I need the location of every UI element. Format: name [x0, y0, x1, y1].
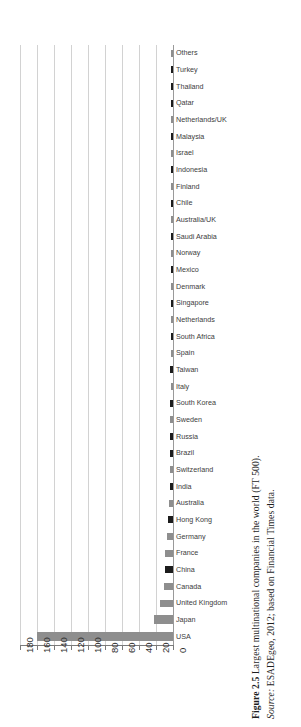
category-label: Israel — [176, 149, 194, 156]
bar-row — [20, 595, 173, 612]
category-label: Sweden — [176, 416, 202, 423]
bar-row — [20, 62, 173, 79]
x-tick-label: 40 — [143, 642, 154, 653]
caption-title-line: Figure 2.5 Largest multinational compani… — [250, 455, 261, 719]
x-tick-label: 140 — [58, 637, 69, 653]
x-tick — [88, 646, 89, 650]
bar — [165, 550, 173, 557]
bar-row — [20, 428, 173, 445]
bar-row — [20, 195, 173, 212]
category-label: Norway — [176, 249, 200, 256]
bar-row — [20, 495, 173, 512]
category-label: India — [176, 483, 192, 490]
bar — [171, 350, 173, 357]
bar — [171, 133, 173, 140]
bar — [171, 250, 173, 257]
bar-row — [20, 362, 173, 379]
bar-row — [20, 345, 173, 362]
bar-row — [20, 45, 173, 62]
bar — [171, 116, 173, 123]
bar — [171, 183, 173, 190]
category-label: Mexico — [176, 266, 199, 273]
caption-source-line: Source: ESADEgeo, 2012; based on Financi… — [265, 489, 276, 719]
bar — [171, 66, 173, 73]
x-tick — [122, 646, 123, 650]
category-labels-group: OthersTurkeyThailandQatarNetherlands/UKM… — [176, 45, 246, 645]
x-tick — [173, 646, 174, 650]
bar — [171, 83, 173, 90]
x-tick — [139, 646, 140, 650]
bar-row — [20, 395, 173, 412]
category-label: Saudi Arabia — [176, 233, 217, 240]
bar-row — [20, 512, 173, 529]
x-tick — [156, 646, 157, 650]
bar-row — [20, 612, 173, 629]
x-tick-label: 80 — [109, 642, 120, 653]
x-tick-label: 180 — [24, 637, 35, 653]
bar-row — [20, 112, 173, 129]
bar-row — [20, 545, 173, 562]
x-tick-label: 0 — [177, 648, 188, 653]
bar-row — [20, 445, 173, 462]
bar — [171, 283, 173, 290]
bar-row — [20, 378, 173, 395]
bar-row — [20, 128, 173, 145]
bar — [170, 450, 173, 457]
category-label: China — [176, 566, 195, 573]
category-label: Denmark — [176, 283, 205, 290]
bar — [170, 416, 173, 423]
bar — [167, 533, 173, 540]
category-label: Indonesia — [176, 166, 207, 173]
bar-row — [20, 278, 173, 295]
category-label: Australia — [176, 499, 204, 506]
bar — [171, 216, 173, 223]
bar-row — [20, 78, 173, 95]
bar — [170, 483, 173, 490]
bar — [170, 366, 173, 373]
bar — [171, 383, 173, 390]
bar-row — [20, 95, 173, 112]
x-tick-label: 100 — [92, 637, 103, 653]
caption-figure-number: Figure 2.5 — [250, 677, 261, 719]
category-label: USA — [176, 633, 191, 640]
x-tick-label: 20 — [160, 642, 171, 653]
bar-row — [20, 212, 173, 229]
bar — [160, 600, 173, 607]
bar-row — [20, 178, 173, 195]
category-label: United Kingdom — [176, 599, 227, 606]
bar — [170, 400, 173, 407]
bar — [171, 333, 173, 340]
category-label: Chile — [176, 199, 192, 206]
category-label: Malaysia — [176, 133, 204, 140]
figure-bar-chart: OthersTurkeyThailandQatarNetherlands/UKM… — [0, 0, 245, 727]
plot-area — [20, 45, 173, 645]
x-tick-label: 60 — [126, 642, 137, 653]
category-label: Russia — [176, 433, 198, 440]
bar-row — [20, 578, 173, 595]
category-label: Turkey — [176, 66, 198, 73]
bar-row — [20, 145, 173, 162]
bar — [154, 615, 173, 624]
bar — [165, 566, 174, 573]
bar — [171, 50, 173, 57]
caption-source-label: Source: — [265, 689, 276, 719]
category-label: France — [176, 549, 198, 556]
bar-row — [20, 528, 173, 545]
category-label: Germany — [176, 533, 206, 540]
caption-source-text: ESADEgeo, 2012; based on Financial Times… — [265, 489, 276, 686]
category-label: Switzerland — [176, 466, 213, 473]
bar — [169, 500, 173, 507]
bar-row — [20, 312, 173, 329]
x-tick — [20, 646, 21, 650]
x-tick — [105, 646, 106, 650]
category-label: Spain — [176, 349, 194, 356]
category-label: Japan — [176, 616, 196, 623]
category-label: South Korea — [176, 399, 216, 406]
category-label: Others — [176, 49, 198, 56]
bar-row — [20, 328, 173, 345]
bar-row — [20, 162, 173, 179]
bar — [171, 316, 173, 323]
x-tick — [37, 646, 38, 650]
bar — [171, 100, 173, 107]
category-label: Italy — [176, 383, 189, 390]
